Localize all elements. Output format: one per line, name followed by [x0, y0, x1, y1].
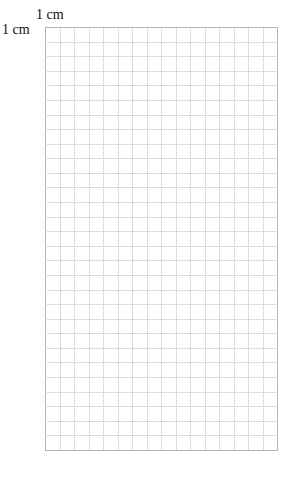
centimeter-grid: [45, 27, 278, 451]
vertical-scale-label: 1 cm: [2, 23, 30, 37]
horizontal-scale-label: 1 cm: [36, 8, 64, 22]
